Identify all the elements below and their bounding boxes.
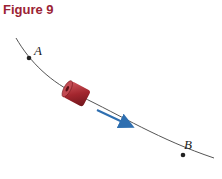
point-b-dot — [181, 153, 186, 158]
point-b-label: B — [184, 137, 192, 152]
velocity-arrow-icon — [97, 110, 131, 126]
cylindrical-bead-icon — [60, 79, 91, 107]
point-a-label: A — [33, 43, 42, 58]
diagram-canvas: A B — [0, 0, 222, 179]
point-a-dot — [27, 56, 32, 61]
